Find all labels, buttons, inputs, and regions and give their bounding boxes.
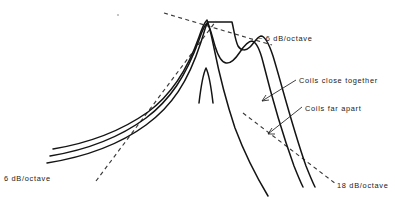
leader-line-far	[268, 107, 302, 134]
label-asymptote-bottom-right: 18 dB/octave	[337, 181, 389, 190]
label-asymptote-bottom-left: 6 dB/octave	[4, 174, 51, 183]
print-speck-artifact	[117, 14, 119, 16]
label-coils-close-together: Coils close together	[299, 76, 378, 85]
asymptote-low-frequency-6db	[96, 21, 216, 181]
label-asymptote-top-right: ~ 6 dB/octave	[258, 34, 313, 43]
asymptote-high-frequency-18db	[243, 113, 336, 184]
coupled-resonance-response-diagram: ~ 6 dB/octave 6 dB/octave 18 dB/octave C…	[0, 0, 395, 203]
arrowhead-close	[262, 95, 269, 101]
label-coils-far-apart: Coils far apart	[305, 104, 362, 113]
curve-intermediate-coupling	[50, 23, 303, 187]
leader-coils-close-together	[262, 80, 296, 101]
curve-inner-sharp-peak	[199, 68, 213, 103]
curve-coils-far-apart	[53, 20, 268, 196]
leader-line-close	[262, 80, 296, 101]
leader-coils-far-apart	[268, 107, 302, 134]
